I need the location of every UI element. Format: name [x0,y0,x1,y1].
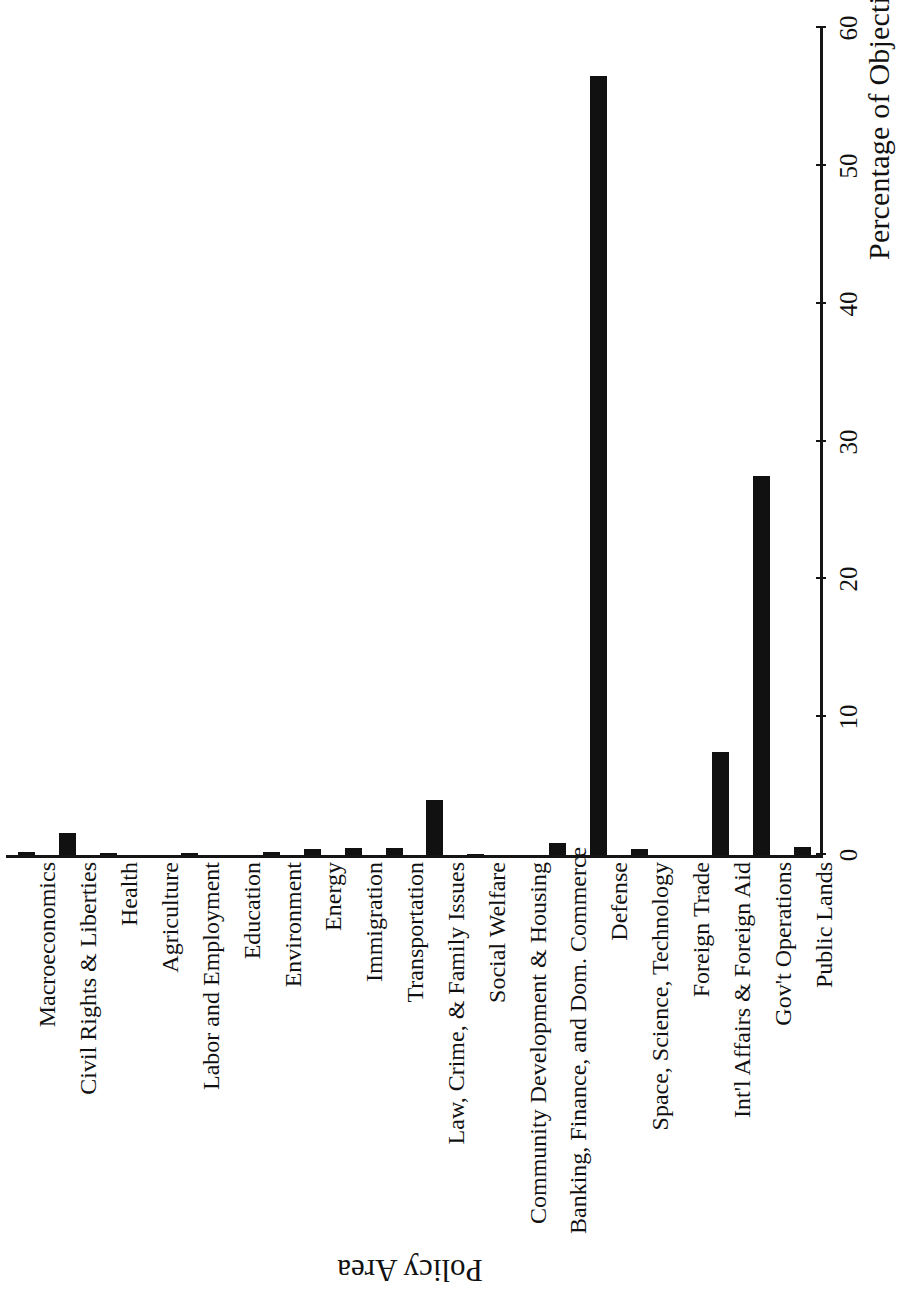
bar-slot [782,28,823,855]
value-axis-tick-label: 20 [836,561,862,597]
bar-slot [741,28,782,855]
plot-area: 0102030405060 [6,28,823,858]
bar [304,849,321,855]
bar-slot [619,28,660,855]
bar-slot [88,28,129,855]
value-axis-tick-label: 10 [836,699,862,735]
bar [753,476,770,855]
category-axis-tick-label: Int'l Affairs & Foreign Aid [730,862,755,1234]
bar [712,752,729,855]
category-axis-tick-label: Environment [281,862,306,1234]
value-axis-tick-label: 50 [836,148,862,184]
value-axis-tick-label: 60 [836,10,862,46]
category-axis-tick-label: Public Lands [812,862,837,1234]
category-axis-line [6,855,823,858]
category-axis-tick-label: Gov't Operations [771,862,796,1234]
bar-slot [292,28,333,855]
bar [549,843,566,855]
value-axis-tick-label: 0 [836,837,862,873]
bar-slot [537,28,578,855]
value-axis-tick-label: 30 [836,424,862,460]
category-axis-tick-label: Labor and Employment [199,862,224,1234]
bar-slot [6,28,47,855]
bar-slot [660,28,701,855]
value-axis-tick-label: 40 [836,286,862,322]
bar [794,847,811,855]
bar-slot [496,28,537,855]
bar-slot [210,28,251,855]
category-axis-tick-label: Foreign Trade [689,862,714,1234]
bar-slot [455,28,496,855]
bar-slot [251,28,292,855]
category-axis-tick-label: Social Welfare [485,862,510,1234]
bar [386,848,403,855]
category-axis-tick-label: Agriculture [158,862,183,1234]
bar [18,852,35,855]
category-axis-tick-label: Energy [321,862,346,1234]
category-axis-title: Policy Area [0,1252,820,1288]
bar [181,853,198,855]
category-axis-labels: MacroeconomicsCivil Rights & LibertiesHe… [6,862,823,1242]
bar [631,849,648,855]
bar-slot [129,28,170,855]
category-axis-tick-label: Macroeconomics [35,862,60,1234]
category-axis-tick-label: Community Development & Housing [526,862,551,1234]
category-axis-tick-label: Transportation [403,862,428,1234]
bar-series [6,28,823,855]
bar-slot [415,28,456,855]
bar [263,852,280,855]
category-axis-tick-label: Education [240,862,265,1234]
bar [345,848,362,855]
bar-slot [700,28,741,855]
bar-slot [169,28,210,855]
bar-slot [333,28,374,855]
bar [426,800,443,855]
bar [100,853,117,855]
value-axis-title: Percentage of Objections [862,0,896,260]
bar-chart-figure: 0102030405060 Percentage of Objections M… [0,0,914,1305]
category-axis-tick-label: Law, Crime, & Family Issues [444,862,469,1234]
category-axis-tick-label: Space, Science, Technology [648,862,673,1234]
category-axis-tick-label: Health [117,862,142,1234]
bar [590,76,607,855]
bar [59,833,76,855]
category-axis-tick-label: Defense [607,862,632,1234]
category-axis-tick-label: Civil Rights & Liberties [76,862,101,1234]
bar-slot [374,28,415,855]
category-axis-tick-label: Immigration [362,862,387,1234]
bar-slot [578,28,619,855]
category-axis-tick-label: Banking, Finance, and Dom. Commerce [566,862,591,1234]
bar-slot [47,28,88,855]
bar [467,854,484,855]
